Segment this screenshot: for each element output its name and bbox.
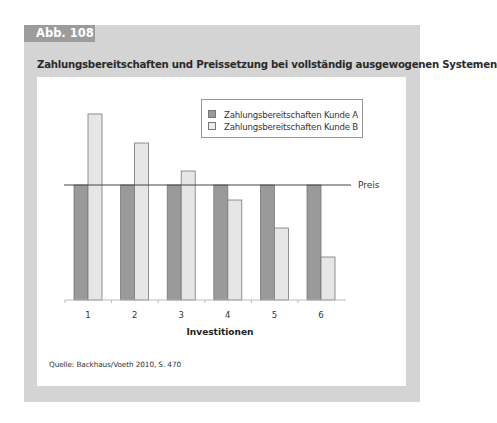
legend-item-b: Zahlungsbereitschaften Kunde B [208, 122, 358, 132]
legend-label-b: Zahlungsbereitschaften Kunde B [224, 122, 358, 132]
bar-a-5 [260, 185, 274, 300]
x-axis-label: Investitionen [165, 327, 275, 337]
legend-swatch-b-icon [208, 122, 216, 130]
x-tick-label: 6 [311, 310, 331, 320]
source-note: Quelle: Backhaus/Voeth 2010, S. 470 [49, 360, 181, 369]
bar-b-6 [321, 257, 335, 300]
legend-label-a: Zahlungsbereitschaften Kunde A [224, 110, 358, 120]
bar-b-5 [274, 228, 288, 300]
x-tick-label: 3 [171, 310, 191, 320]
x-tick-label: 5 [264, 310, 284, 320]
bars-group [74, 114, 335, 300]
bar-b-3 [181, 171, 195, 300]
price-label: Preis [358, 180, 380, 190]
bar-a-4 [214, 185, 228, 300]
bar-a-2 [121, 185, 135, 300]
bar-b-4 [228, 200, 242, 300]
x-tick-label: 4 [218, 310, 238, 320]
bar-a-3 [167, 185, 181, 300]
bar-a-6 [307, 185, 321, 300]
bar-a-1 [74, 185, 88, 300]
bar-b-2 [135, 143, 149, 300]
legend: Zahlungsbereitschaften Kunde A Zahlungsb… [201, 99, 363, 138]
legend-swatch-a-icon [208, 110, 216, 118]
bar-b-1 [88, 114, 102, 300]
x-tick-label: 2 [125, 310, 145, 320]
legend-item-a: Zahlungsbereitschaften Kunde A [208, 110, 358, 120]
x-tick-label: 1 [78, 310, 98, 320]
